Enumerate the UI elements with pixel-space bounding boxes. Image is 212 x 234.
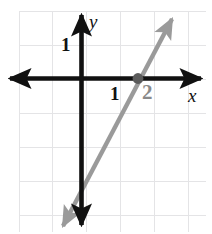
x-axis-unit-label: 1 — [110, 84, 120, 103]
graph-canvas — [0, 0, 212, 234]
y-axis-unit-label: 1 — [61, 35, 71, 54]
x-intercept-label: 2 — [142, 82, 153, 103]
y-axis-name-label: y — [89, 12, 97, 31]
x-axis-name-label: x — [188, 86, 196, 105]
axes — [10, 15, 201, 225]
grid-lines — [19, 11, 206, 232]
coordinate-plane-figure: 1 1 2 x y — [0, 0, 212, 234]
